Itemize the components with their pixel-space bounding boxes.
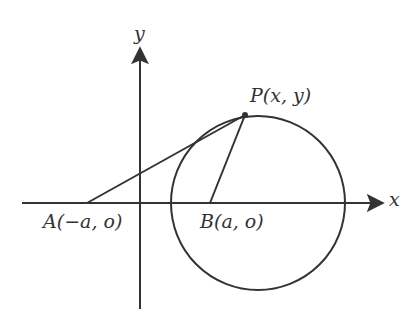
point-B-label: B(a, o) [200,212,264,231]
x-axis-label: x [389,190,400,209]
point-P [242,112,248,118]
diagram: y x P(x, y) A(−a, o) B(a, o) [0,0,420,322]
segment-AP [87,115,245,203]
diagram-canvas [0,0,420,322]
point-P-label: P(x, y) [250,86,311,105]
point-A-label: A(−a, o) [43,212,122,231]
y-axis-label: y [134,24,145,43]
